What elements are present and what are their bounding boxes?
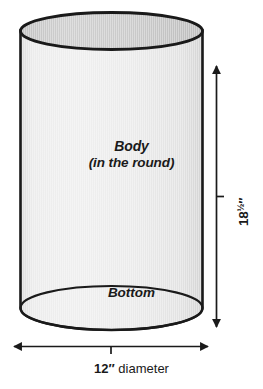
height-dimension-label: 18½″: [235, 166, 263, 226]
height-value: 18: [236, 211, 251, 226]
bottom-label: Bottom: [0, 285, 263, 301]
diameter-dimension-arrow: [14, 347, 208, 355]
diameter-word: diameter: [118, 361, 169, 376]
diameter-value: 12″: [94, 361, 115, 376]
body-label: Body (in the round): [0, 138, 263, 170]
cylinder-top-ellipse: [21, 13, 203, 50]
height-fraction: ½: [235, 204, 246, 212]
height-unit: ″: [236, 198, 251, 204]
diameter-dimension-label: 12″ diameter: [0, 361, 263, 376]
cylinder-figure: [0, 0, 263, 389]
diagram-canvas: Body (in the round) Bottom 18½″ 12″ diam…: [0, 0, 263, 389]
body-label-line1: Body: [0, 138, 263, 155]
body-label-line2: (in the round): [0, 155, 263, 171]
